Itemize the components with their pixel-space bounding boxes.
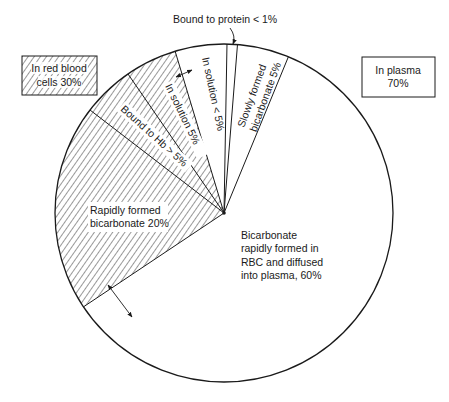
legend-rbc-line2: cells 30% — [37, 76, 82, 88]
label-rapidly-formed: Rapidly formed bicarbonate 20% — [88, 202, 169, 232]
label-diffused-line2: rapidly formed in — [241, 242, 319, 254]
protein-pointer-arrow — [230, 28, 234, 44]
legend-rbc-line1: In red blood — [31, 62, 87, 74]
label-diffused-line4: into plasma, 60% — [241, 269, 322, 281]
label-diffused-line1: Bicarbonate — [241, 229, 297, 241]
pie-center-dot — [222, 211, 226, 215]
legend-plasma: In plasma 70% — [362, 57, 435, 97]
legend-plasma-line1: In plasma — [375, 64, 421, 76]
label-diffused-line3: RBC and diffused — [241, 256, 323, 268]
legend-rbc: In red blood cells 30% — [22, 56, 97, 95]
pie-diagram: In red blood cells 30% In plasma 70% Bou… — [0, 0, 449, 402]
label-bound-to-protein: Bound to protein < 1% — [173, 13, 277, 25]
label-rapidly-formed-line1: Rapidly formed — [90, 204, 161, 216]
legend-plasma-line2: 70% — [387, 77, 408, 89]
label-rapidly-formed-line2: bicarbonate 20% — [90, 217, 169, 229]
